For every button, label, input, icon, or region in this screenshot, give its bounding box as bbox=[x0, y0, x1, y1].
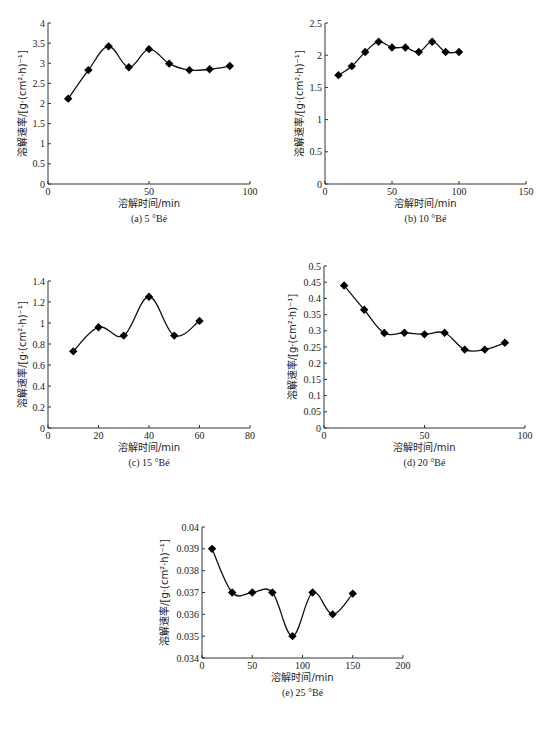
y-tick-label: 2.5 bbox=[310, 18, 323, 29]
y-tick-label: 0.1 bbox=[309, 390, 322, 401]
x-tick-label: 20 bbox=[94, 430, 104, 441]
series-line bbox=[338, 42, 459, 76]
data-point-diamond bbox=[226, 62, 234, 70]
x-tick-label: 50 bbox=[247, 660, 257, 671]
x-tick-label: 150 bbox=[345, 660, 360, 671]
x-axis-label: 溶解时间/min bbox=[394, 197, 456, 209]
x-tick-label: 200 bbox=[396, 660, 411, 671]
y-tick-label: 1 bbox=[40, 138, 45, 149]
data-point-diamond bbox=[104, 42, 112, 50]
subplot-title: (d) 20 °Bé bbox=[404, 457, 446, 469]
y-tick-label: 1 bbox=[40, 318, 45, 329]
data-point-diamond bbox=[374, 37, 382, 45]
x-tick-label: 100 bbox=[295, 660, 310, 671]
data-point-diamond bbox=[481, 345, 489, 353]
figure-canvas: 05010000.511.522.533.54溶解时间/min溶解速率/[g·(… bbox=[0, 0, 550, 746]
y-axis-label: 溶解速率/[g·(cm²·h)⁻¹] bbox=[293, 50, 305, 157]
data-point-diamond bbox=[165, 59, 173, 67]
subplot-title: (b) 10 °Bé bbox=[405, 213, 447, 225]
y-tick-label: 0.04 bbox=[182, 522, 200, 533]
y-tick-label: 1.4 bbox=[33, 276, 46, 287]
y-tick-label: 0.038 bbox=[177, 565, 200, 576]
x-tick-label: 0 bbox=[46, 430, 51, 441]
y-axis-label: 溶解速率/[g·(cm²·h)⁻¹] bbox=[158, 539, 170, 646]
x-tick-label: 80 bbox=[245, 430, 255, 441]
y-tick-label: 0.05 bbox=[304, 406, 322, 417]
chart-panel-c: 02040608000.20.40.60.811.21.4溶解时间/min溶解速… bbox=[16, 276, 255, 470]
y-tick-label: 0 bbox=[40, 423, 45, 434]
x-axis-label: 溶解时间/min bbox=[118, 441, 180, 453]
data-point-diamond bbox=[208, 545, 216, 553]
data-point-diamond bbox=[400, 329, 408, 337]
y-tick-label: 0.5 bbox=[310, 146, 323, 157]
y-axis-label: 溶解速率/[g·(cm²·h)⁻¹] bbox=[16, 50, 28, 157]
y-tick-label: 0.35 bbox=[304, 309, 322, 320]
y-tick-label: 0.035 bbox=[177, 631, 200, 642]
series-line bbox=[68, 46, 230, 98]
y-tick-label: 0.4 bbox=[309, 293, 322, 304]
y-axis-label: 溶解速率/[g·(cm²·h)⁻¹] bbox=[16, 301, 28, 408]
chart-panel-e: 0501001502000.0340.0350.0360.0370.0380.0… bbox=[158, 522, 411, 700]
data-point-diamond bbox=[145, 293, 153, 301]
subplot-title: (e) 25 °Bé bbox=[282, 687, 324, 699]
data-point-diamond bbox=[334, 71, 342, 79]
data-point-diamond bbox=[401, 43, 409, 51]
data-point-diamond bbox=[441, 48, 449, 56]
subplot-title: (c) 15 °Bé bbox=[128, 457, 170, 469]
data-point-diamond bbox=[185, 66, 193, 74]
y-tick-label: 0.2 bbox=[309, 358, 322, 369]
y-tick-label: 0.037 bbox=[177, 587, 200, 598]
chart-panel-d: 05010000.050.10.150.20.250.30.350.40.450… bbox=[286, 261, 533, 470]
y-tick-label: 2.5 bbox=[33, 78, 46, 89]
y-tick-label: 0.8 bbox=[33, 339, 46, 350]
x-tick-label: 50 bbox=[420, 430, 430, 441]
series-line bbox=[73, 297, 199, 352]
x-tick-label: 100 bbox=[243, 186, 258, 197]
data-point-diamond bbox=[248, 588, 256, 596]
x-axis-label: 溶解时间/min bbox=[118, 197, 180, 209]
y-axis-label: 溶解速率/[g·(cm²·h)⁻¹] bbox=[286, 294, 298, 401]
x-tick-label: 50 bbox=[144, 186, 154, 197]
y-tick-label: 0.5 bbox=[309, 261, 322, 272]
y-tick-label: 1.5 bbox=[310, 82, 323, 93]
x-axis-label: 溶解时间/min bbox=[271, 671, 333, 683]
y-tick-label: 2 bbox=[317, 50, 322, 61]
y-tick-label: 1.2 bbox=[33, 297, 46, 308]
y-tick-label: 0.25 bbox=[304, 342, 322, 353]
x-tick-label: 50 bbox=[387, 186, 397, 197]
data-point-diamond bbox=[440, 329, 448, 337]
y-tick-label: 0.3 bbox=[309, 325, 322, 336]
y-tick-label: 1 bbox=[317, 114, 322, 125]
y-tick-label: 2 bbox=[40, 98, 45, 109]
data-point-diamond bbox=[428, 37, 436, 45]
y-tick-label: 0.036 bbox=[177, 609, 200, 620]
y-tick-label: 3.5 bbox=[33, 38, 46, 49]
y-tick-label: 4 bbox=[40, 18, 45, 29]
y-tick-label: 0.6 bbox=[33, 360, 46, 371]
x-axis-label: 溶解时间/min bbox=[393, 441, 455, 453]
chart-panel-a: 05010000.511.522.533.54溶解时间/min溶解速率/[g·(… bbox=[16, 18, 258, 226]
x-tick-label: 100 bbox=[452, 186, 467, 197]
data-point-diamond bbox=[125, 63, 133, 71]
data-point-diamond bbox=[328, 610, 336, 618]
x-tick-label: 40 bbox=[144, 430, 154, 441]
x-tick-label: 0 bbox=[200, 660, 205, 671]
data-point-diamond bbox=[420, 330, 428, 338]
y-tick-label: 3 bbox=[40, 58, 45, 69]
x-tick-label: 0 bbox=[46, 186, 51, 197]
data-point-diamond bbox=[501, 339, 509, 347]
data-point-diamond bbox=[205, 65, 213, 73]
subplot-title: (a) 5 °Bé bbox=[131, 213, 168, 225]
data-point-diamond bbox=[415, 48, 423, 56]
data-point-diamond bbox=[455, 48, 463, 56]
y-tick-label: 1.5 bbox=[33, 118, 46, 129]
data-point-diamond bbox=[94, 323, 102, 331]
y-tick-label: 0 bbox=[317, 179, 322, 190]
x-tick-label: 0 bbox=[323, 186, 328, 197]
y-tick-label: 0.5 bbox=[33, 158, 46, 169]
y-tick-label: 0.45 bbox=[304, 277, 322, 288]
y-tick-label: 0.4 bbox=[33, 381, 46, 392]
y-tick-label: 0 bbox=[40, 179, 45, 190]
y-tick-label: 0.034 bbox=[177, 653, 200, 664]
data-point-diamond bbox=[145, 45, 153, 53]
